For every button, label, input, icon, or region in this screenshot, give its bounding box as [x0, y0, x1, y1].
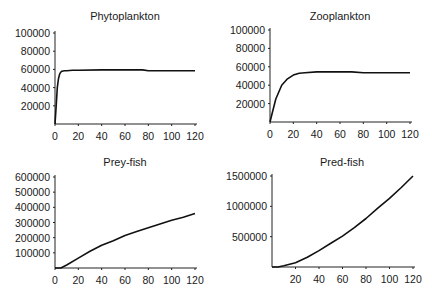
x-tick-label: 80: [142, 130, 154, 142]
y-tick-label: 300000: [15, 217, 50, 229]
y-tick-label: 100000: [15, 27, 50, 39]
x-tick-label: 20: [72, 274, 84, 286]
x-tick-label: 100: [381, 273, 399, 285]
y-tick-label: 200000: [15, 232, 50, 244]
y-tick-label: 100000: [230, 24, 265, 36]
y-tick-label: 500000: [15, 186, 50, 198]
y-tick-label: 40000: [21, 82, 50, 94]
x-tick-label: 20: [290, 273, 302, 285]
series-line: [270, 72, 410, 122]
series-line: [55, 70, 195, 124]
y-tick-label: 1500000: [226, 170, 267, 182]
x-tick-label: 60: [334, 128, 346, 140]
y-tick-label: 60000: [21, 63, 50, 75]
x-tick-label: 40: [313, 273, 325, 285]
x-tick-label: 60: [337, 273, 349, 285]
x-tick-label: 40: [96, 274, 108, 286]
chart-title: Prey-fish: [103, 156, 146, 168]
x-tick-label: 100: [163, 130, 181, 142]
chart-title: Zooplankton: [310, 10, 371, 22]
x-tick-label: 0: [52, 274, 58, 286]
chart-title: Pred-fish: [320, 156, 364, 168]
y-tick-label: 100000: [15, 247, 50, 259]
y-tick-label: 80000: [236, 42, 265, 54]
chart-phytoplankton: Phytoplankton200004000060000800001000000…: [15, 10, 204, 142]
y-tick-label: 600000: [15, 171, 50, 183]
y-tick-label: 40000: [236, 79, 265, 91]
x-tick-label: 0: [52, 130, 58, 142]
x-tick-label: 60: [119, 274, 131, 286]
x-tick-label: 0: [267, 128, 273, 140]
series-line: [55, 213, 195, 268]
x-tick-label: 20: [287, 128, 299, 140]
x-tick-label: 100: [378, 128, 396, 140]
chart-zooplankton: Zooplankton20000400006000080000100000020…: [230, 10, 419, 140]
chart-grid: Phytoplankton200004000060000800001000000…: [0, 0, 432, 298]
y-tick-label: 80000: [21, 45, 50, 57]
series-line: [272, 176, 413, 267]
x-tick-label: 120: [404, 273, 422, 285]
chart-prey-fish: Prey-fish1000002000003000004000005000006…: [15, 156, 204, 286]
y-tick-label: 20000: [236, 98, 265, 110]
x-tick-label: 40: [311, 128, 323, 140]
x-tick-label: 80: [360, 273, 372, 285]
y-tick-label: 400000: [15, 201, 50, 213]
y-tick-label: 1000000: [226, 200, 267, 212]
x-tick-label: 80: [357, 128, 369, 140]
y-tick-label: 20000: [21, 100, 50, 112]
x-tick-label: 40: [96, 130, 108, 142]
y-tick-label: 60000: [236, 61, 265, 73]
chart-title: Phytoplankton: [90, 10, 160, 22]
y-tick-label: 500000: [232, 231, 267, 243]
x-tick-label: 20: [72, 130, 84, 142]
x-tick-label: 80: [142, 274, 154, 286]
x-tick-label: 120: [401, 128, 419, 140]
x-tick-label: 100: [163, 274, 181, 286]
x-tick-label: 120: [186, 274, 204, 286]
x-tick-label: 60: [119, 130, 131, 142]
chart-pred-fish: Pred-fish5000001000000150000020406080100…: [226, 156, 422, 285]
x-tick-label: 120: [186, 130, 204, 142]
